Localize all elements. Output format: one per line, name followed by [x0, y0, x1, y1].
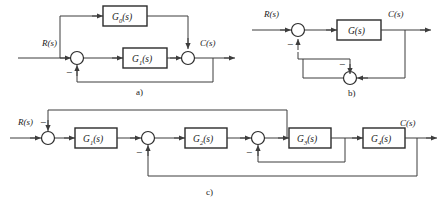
panel-c-sum-1-minus: −	[40, 116, 46, 128]
panel-a-input-label: R(s)	[41, 38, 57, 48]
panel-b-input-label: R(s)	[263, 9, 279, 19]
panel-b-block-g-label: G(s)	[348, 26, 365, 37]
panel-c-sum-3-minus: −	[246, 146, 252, 158]
panel-b-sum-2-minus: −	[339, 58, 345, 70]
panel-c-block-g2-label: G2(s)	[193, 134, 213, 146]
panel-a-sum-1	[71, 52, 84, 65]
block-diagram-svg: R(s) G0(s) − G1(s) C(s)	[0, 0, 440, 203]
panel-a-output-label: C(s)	[200, 38, 216, 48]
panel-b-output-label: C(s)	[388, 9, 404, 19]
panel-c-block-g4-label: G4(s)	[371, 134, 391, 146]
panel-c-output-label: C(s)	[400, 118, 416, 128]
panel-c-sum-1	[42, 132, 55, 145]
panel-b-label: b)	[348, 88, 356, 98]
panel-c-sum-2	[142, 132, 155, 145]
panel-b: R(s) − G(s) C(s) − b	[252, 9, 431, 98]
panel-a-block-g1-label: G1(s)	[132, 54, 152, 66]
panel-c-input-label: R(s)	[17, 117, 33, 127]
figure-canvas: R(s) G0(s) − G1(s) C(s)	[0, 0, 440, 203]
panel-c-block-g3-label: G3(s)	[297, 134, 317, 146]
panel-a-sum-2	[182, 52, 195, 65]
panel-c-block-g1-label: G1(s)	[83, 134, 103, 146]
panel-c: R(s) − G1(s) − G2(s) −	[10, 110, 437, 197]
panel-b-sum-1-minus: −	[287, 38, 293, 50]
panel-c-label: c)	[206, 187, 213, 197]
panel-a-sum-1-minus: −	[66, 66, 72, 78]
panel-a-label: a)	[136, 87, 143, 97]
panel-b-sum-1	[292, 24, 305, 37]
panel-c-sum-2-minus: −	[136, 146, 142, 158]
panel-c-sum-3	[252, 132, 265, 145]
panel-a-block-g0-label: G0(s)	[112, 12, 132, 24]
panel-a: R(s) G0(s) − G1(s) C(s)	[18, 6, 235, 97]
